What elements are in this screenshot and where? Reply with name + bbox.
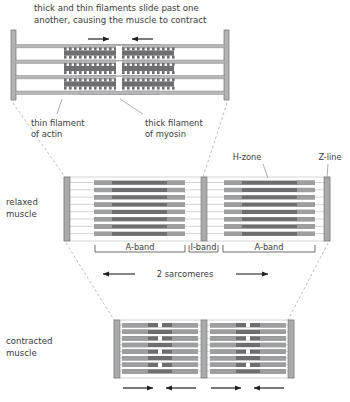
zoom-connectors-bottom [66, 243, 328, 320]
contracted-muscle-panel: contracted muscle [6, 320, 294, 388]
label-z-line: Z-line [318, 152, 341, 162]
z-line-middle-contracted [201, 320, 207, 378]
label-2-sarcomeres: 2 sarcomeres [157, 269, 214, 279]
label-a-band-right: A-band [255, 242, 284, 252]
label-thin-filament-line1: thin filament [31, 118, 85, 128]
z-line-left-relaxed [64, 177, 70, 241]
figure-canvas: thick and thin filaments slide past one … [0, 0, 350, 402]
z-line-right-magnified [224, 30, 229, 100]
leader-thin-filament [57, 99, 62, 114]
zoom-connectors-top [13, 103, 227, 177]
relaxed-muscle-panel: relaxed muscle [6, 152, 342, 279]
label-contracted-line1: contracted [6, 336, 52, 346]
label-thick-filament-line2: of myosin [145, 129, 186, 139]
label-h-zone: H-zone [233, 152, 262, 162]
label-relaxed-line1: relaxed [6, 197, 38, 207]
leader-thick-filament [120, 99, 143, 114]
leader-z-line [327, 164, 328, 178]
z-line-right-relaxed [324, 177, 330, 241]
label-contracted-line2: muscle [6, 348, 37, 358]
label-thin-filament-line2: of actin [31, 129, 62, 139]
leader-h-zone [263, 164, 268, 178]
figure-caption-line2: another, causing the muscle to contract [34, 15, 207, 25]
muscle-contraction-diagram: thick and thin filaments slide past one … [0, 0, 350, 402]
label-i-band: I-band [191, 242, 217, 252]
label-relaxed-line2: muscle [6, 209, 37, 219]
z-line-right-contracted [288, 320, 294, 378]
z-line-middle-relaxed [201, 177, 207, 241]
relaxed-outline [64, 177, 330, 241]
magnified-sarcomere-panel: thin filament of actin thick filament of… [11, 30, 229, 139]
label-a-band-left: A-band [126, 242, 155, 252]
z-line-left-magnified [11, 30, 16, 100]
bare-zone-gaps [116, 46, 122, 91]
figure-caption-line1: thick and thin filaments slide past one [34, 3, 199, 13]
z-line-left-contracted [114, 320, 120, 378]
label-thick-filament-line1: thick filament [145, 118, 203, 128]
